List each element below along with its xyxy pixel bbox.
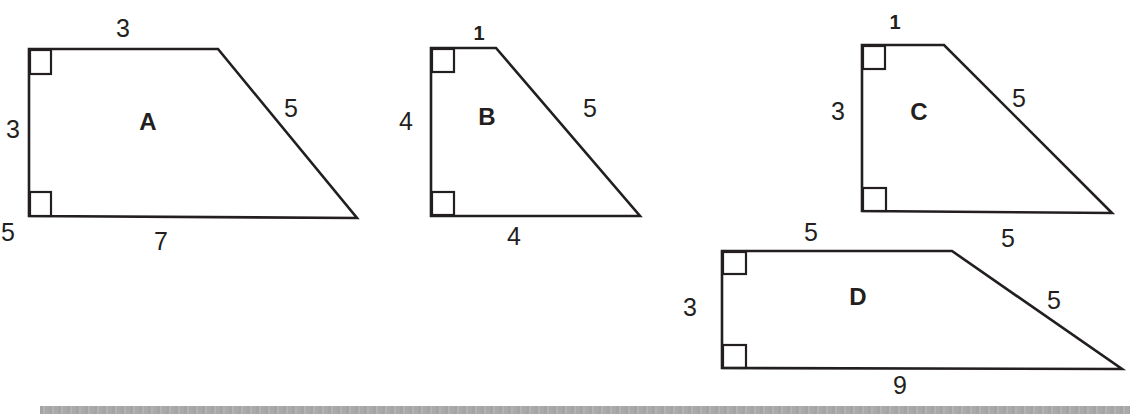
trapezoid-d-extra-length: 5 [1, 220, 15, 245]
right-angle-marker-icon [30, 192, 51, 216]
right-angle-marker-icon [863, 46, 885, 69]
trapezoid-b-label: B [478, 105, 495, 129]
trapezoid-d [722, 251, 1122, 369]
trapezoid-c-top-length: 1 [889, 12, 900, 32]
trapezoid-c-slant-length: 5 [1012, 86, 1026, 111]
trapezoid-c-outline [862, 45, 1112, 213]
trapezoid-d-bottom-length: 9 [893, 373, 907, 398]
trapezoid-a-label: A [139, 110, 156, 134]
right-angle-marker-icon [723, 252, 746, 274]
trapezoid-a-bottom-length: 7 [154, 229, 168, 254]
trapezoid-d-left-length: 3 [683, 295, 697, 320]
right-angle-marker-icon [432, 49, 454, 72]
trapezoid-b-outline [431, 48, 640, 216]
trapezoid-d-top-length: 5 [804, 220, 818, 245]
trapezoid-a-left-length: 3 [6, 117, 20, 142]
right-angle-marker-icon [432, 192, 454, 215]
trapezoid-a-top-length: 3 [116, 16, 130, 41]
trapezoid-b-slant-length: 5 [583, 96, 597, 121]
trapezoid-d-slant-length: 5 [1047, 288, 1061, 313]
right-angle-marker-icon [723, 345, 746, 368]
trapezoid-c-label: C [910, 100, 927, 124]
trapezoid-c-bottom-length: 5 [1001, 226, 1015, 251]
trapezoid-b-bottom-length: 4 [507, 224, 521, 249]
trapezoid-b-top-length: 1 [473, 23, 484, 43]
trapezoid-b [431, 48, 640, 216]
trapezoid-b-left-length: 4 [399, 109, 413, 134]
trapezoid-d-label: D [849, 285, 866, 309]
trapezoid-c-left-length: 3 [831, 99, 845, 124]
trapezoid-a-outline [29, 49, 357, 218]
trapezoid-c [862, 45, 1112, 213]
trapezoid-a-slant-length: 5 [284, 96, 298, 121]
footer-divider-bar [40, 406, 1130, 414]
trapezoid-diagram [0, 0, 1130, 414]
trapezoid-d-outline [722, 251, 1122, 369]
right-angle-marker-icon [863, 188, 886, 211]
right-angle-marker-icon [30, 50, 51, 74]
trapezoid-a [29, 49, 357, 218]
